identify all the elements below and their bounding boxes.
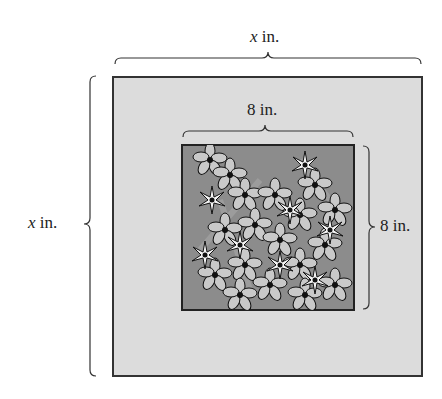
inner-height-label: 8 in. — [380, 216, 410, 236]
outer-height-unit: in. — [36, 213, 58, 232]
outer-width-variable: x — [250, 27, 258, 46]
outer-height-variable: x — [28, 213, 36, 232]
outer-height-brace — [84, 76, 96, 376]
outer-height-label: x in. — [28, 213, 57, 233]
outer-width-label: x in. — [250, 27, 279, 47]
inner-width-label: 8 in. — [247, 100, 277, 120]
figure-canvas — [0, 0, 442, 399]
outer-width-brace — [115, 52, 421, 64]
outer-width-unit: in. — [258, 27, 280, 46]
